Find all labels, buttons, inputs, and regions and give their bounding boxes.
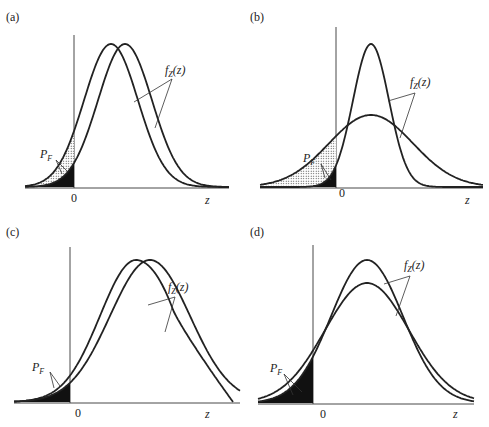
fz-leader-2 <box>396 276 410 316</box>
origin-label: 0 <box>339 186 345 200</box>
pf-label: PF <box>31 360 44 376</box>
fz-leader-1 <box>134 79 172 102</box>
density-curve-normal <box>14 260 240 402</box>
pf-region-dotted <box>260 136 336 187</box>
pf-label: PF <box>302 151 315 167</box>
pf-label: PF <box>39 147 52 163</box>
panel-label: (a) <box>6 10 19 24</box>
x-axis-label: z <box>464 193 470 207</box>
x-axis-label: z <box>204 193 210 207</box>
fz-leader-1 <box>388 93 415 101</box>
fz-label: fZ(z) <box>165 63 185 79</box>
fz-label: fZ(z) <box>410 75 430 91</box>
panel-label: (c) <box>6 225 19 239</box>
fz-leader-1 <box>384 276 410 284</box>
figure: (a) fZ(z) PF 0 z (b) fZ(z) PF 0 z (c) <box>0 0 489 427</box>
panel-c: (c) fZ(z) PF 0 z <box>6 225 240 421</box>
panel-b: (b) fZ(z) PF 0 z <box>250 10 483 207</box>
origin-label: 0 <box>71 191 77 205</box>
pf-label: PF <box>269 361 282 377</box>
density-curve-wide <box>260 115 483 185</box>
x-axis-label: z <box>452 407 458 421</box>
density-curve-1 <box>25 44 229 187</box>
origin-label: 0 <box>75 406 81 420</box>
panel-a: (a) fZ(z) PF 0 z <box>6 10 229 207</box>
x-axis-label: z <box>204 407 210 421</box>
panel-label: (d) <box>250 225 264 239</box>
panel-label: (b) <box>250 10 264 24</box>
fz-label: fZ(z) <box>404 258 424 274</box>
origin-label: 0 <box>320 407 326 421</box>
density-curve-truncated <box>14 260 233 402</box>
panel-d: (d) fZ(z) PF 0 z <box>250 225 474 421</box>
fz-label: fZ(z) <box>168 280 188 296</box>
fz-leader-2 <box>155 79 172 128</box>
fz-leader-2 <box>400 93 415 138</box>
density-curve-short <box>258 283 474 399</box>
